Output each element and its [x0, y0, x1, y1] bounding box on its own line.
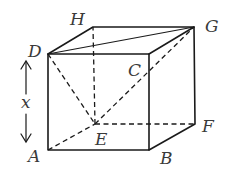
label-A: A — [26, 146, 40, 166]
label-E: E — [94, 129, 108, 149]
label-G: G — [205, 16, 219, 36]
cube-figure: x H D G C F E A B — [0, 0, 231, 174]
edge-EH — [93, 27, 95, 124]
label-D: D — [27, 41, 42, 61]
cube-diagram: x H D G C F E A B — [0, 0, 231, 174]
label-x: x — [21, 92, 31, 112]
label-C: C — [128, 60, 141, 80]
diagonal-DE — [48, 54, 95, 124]
label-B: B — [159, 148, 173, 168]
diagonal-EG — [95, 27, 194, 124]
edge-AE — [48, 124, 95, 150]
label-H: H — [69, 9, 86, 29]
label-F: F — [201, 116, 215, 136]
right-edges — [149, 27, 195, 150]
